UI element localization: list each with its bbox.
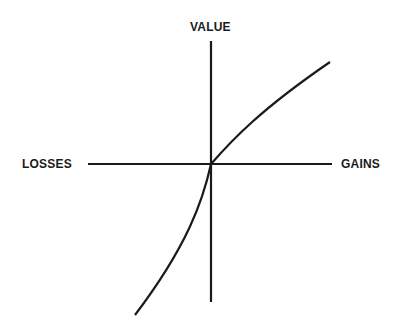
value-function-diagram: VALUE LOSSES GAINS (0, 0, 406, 331)
x-axis-left-label: LOSSES (22, 158, 72, 170)
value-curve-gains (211, 62, 330, 164)
value-curve-losses (135, 164, 211, 315)
x-axis-right-label: GAINS (341, 158, 380, 170)
y-axis-label: VALUE (190, 21, 231, 33)
